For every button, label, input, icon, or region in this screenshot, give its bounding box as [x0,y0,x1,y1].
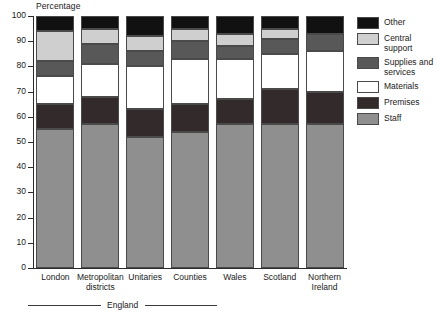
legend-swatch [357,57,379,69]
legend-swatch [357,81,379,93]
bar-segment-premises[interactable] [171,104,209,132]
legend-label: Centralsupport [384,33,412,53]
bar-segment-premises[interactable] [36,104,74,129]
bar-segment-premises[interactable] [216,99,254,124]
legend-swatch [357,17,379,29]
y-tick-label: 10 [17,238,28,247]
bar-segment-other[interactable] [306,16,344,34]
legend-label-line: Premises [384,98,419,108]
y-tick-label: 100 [12,11,28,20]
y-tick-label: 40 [17,162,28,171]
legend-swatch [357,113,379,125]
bar-segment-materials[interactable] [261,54,299,89]
bar-segment-staff[interactable] [36,129,74,268]
bar-segment-supplies-and-services[interactable] [261,39,299,54]
y-tick-label: 90 [17,36,28,45]
bar-segment-premises[interactable] [306,92,344,125]
bar-segment-staff[interactable] [81,124,119,268]
england-group-bracket: England [28,300,217,312]
legend-item-central-support[interactable]: Centralsupport [357,33,437,53]
bar-segment-other[interactable] [36,16,74,31]
y-tick-label: 30 [17,187,28,196]
y-tick-label: 20 [17,213,28,222]
y-tick-label: 60 [17,112,28,121]
bar-segment-other[interactable] [216,16,254,34]
bar-segment-supplies-and-services[interactable] [171,41,209,59]
bar-segment-staff[interactable] [126,137,164,268]
y-axis-title: Percentage [36,1,80,11]
bar-segment-supplies-and-services[interactable] [36,61,74,76]
bar-segment-staff[interactable] [171,132,209,268]
bar-segment-other[interactable] [171,16,209,29]
plot-area [33,16,347,268]
bar-segment-staff[interactable] [261,124,299,268]
bar-segment-premises[interactable] [126,109,164,137]
legend-label: Premises [384,97,419,108]
legend-label-line: Staff [384,114,401,124]
legend-label-line: Other [384,18,405,28]
legend-item-other[interactable]: Other [357,17,437,29]
bar-wales[interactable] [216,16,254,268]
bar-segment-central-support[interactable] [36,31,74,61]
legend-item-staff[interactable]: Staff [357,113,437,125]
bar-scotland[interactable] [261,16,299,268]
bar-segment-materials[interactable] [216,59,254,99]
bar-segment-supplies-and-services[interactable] [81,44,119,64]
bar-segment-staff[interactable] [306,124,344,268]
legend-swatch [357,33,379,45]
stacked-bar-chart: Percentage 0102030405060708090100 London… [0,0,437,325]
x-axis-line [33,268,347,269]
x-axis-label-line: districts [69,282,131,292]
y-tick-label: 0 [21,263,28,272]
legend-label: Other [384,17,405,28]
legend-label-line: Materials [384,82,418,92]
bar-segment-other[interactable] [261,16,299,29]
x-axis-label-northern-ireland: NorthernIreland [294,272,356,292]
legend-label-line: services [384,68,433,78]
bar-segment-premises[interactable] [81,97,119,125]
bar-segment-central-support[interactable] [261,29,299,39]
bracket-rule-right [145,305,217,306]
bar-counties[interactable] [171,16,209,268]
bar-segment-materials[interactable] [171,59,209,104]
bar-northern-ireland[interactable] [306,16,344,268]
bar-segment-central-support[interactable] [81,29,119,44]
legend-label: Supplies andservices [384,57,433,77]
bar-segment-central-support[interactable] [216,34,254,47]
bar-london[interactable] [36,16,74,268]
legend-item-supplies-and-services[interactable]: Supplies andservices [357,57,437,77]
bar-segment-supplies-and-services[interactable] [306,34,344,52]
bar-unitaries[interactable] [126,16,164,268]
y-tick-label: 50 [17,137,28,146]
legend-item-premises[interactable]: Premises [357,97,437,109]
x-axis-label-line: Northern [294,272,356,282]
bar-segment-central-support[interactable] [171,29,209,42]
bar-segment-other[interactable] [81,16,119,29]
x-axis-label-line: Ireland [294,282,356,292]
legend-label-line: support [384,44,412,54]
bar-segment-supplies-and-services[interactable] [216,46,254,59]
bar-segment-other[interactable] [126,16,164,36]
bar-segment-supplies-and-services[interactable] [126,51,164,66]
y-tick-0: 0 [28,268,33,269]
bar-segment-materials[interactable] [36,76,74,104]
y-tick-label: 70 [17,87,28,96]
chart-legend: OtherCentralsupportSupplies andservicesM… [357,17,437,129]
legend-item-materials[interactable]: Materials [357,81,437,93]
bar-segment-materials[interactable] [81,64,119,97]
bar-segment-central-support[interactable] [126,36,164,51]
bar-metropolitan-districts[interactable] [81,16,119,268]
legend-label: Staff [384,113,401,124]
bar-segment-materials[interactable] [306,51,344,91]
bar-segment-materials[interactable] [126,66,164,109]
bar-segment-premises[interactable] [261,89,299,124]
bar-segment-staff[interactable] [216,124,254,268]
legend-label: Materials [384,81,418,92]
legend-swatch [357,97,379,109]
y-tick-label: 80 [17,61,28,70]
